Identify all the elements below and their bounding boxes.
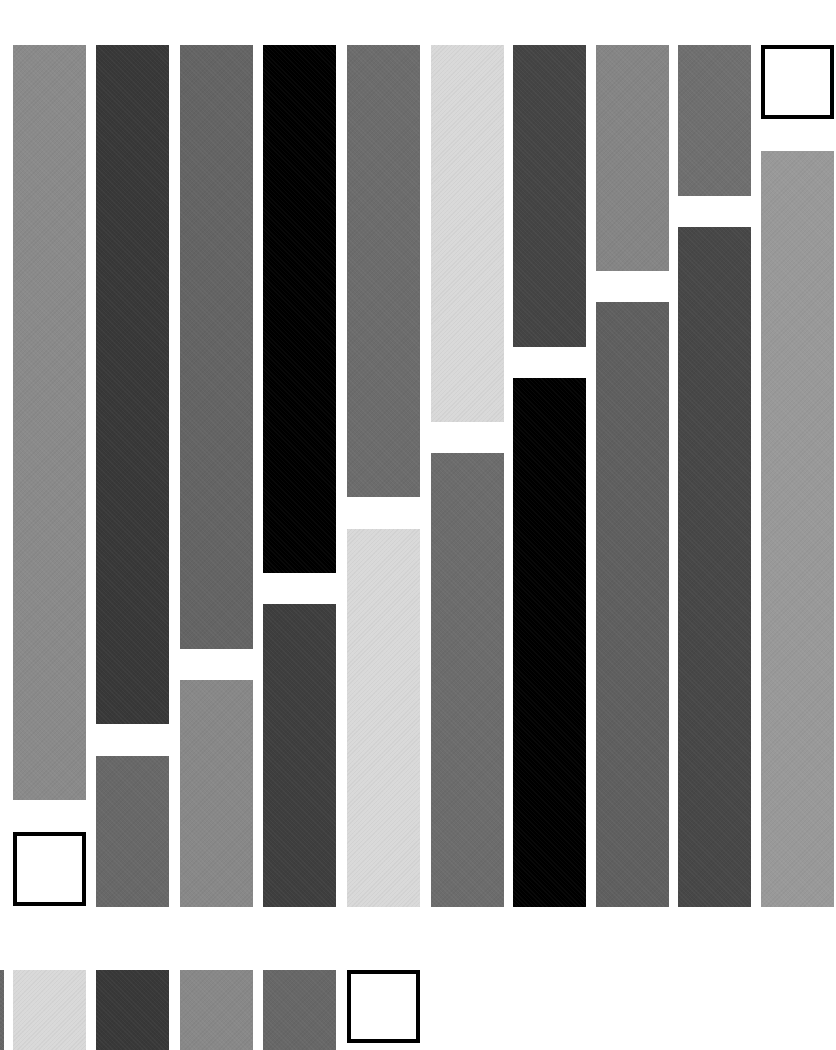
empty-square [13, 832, 86, 906]
gray-bar-segment [431, 453, 504, 907]
gray-bar-segment [180, 45, 253, 649]
gray-bar-segment [678, 45, 751, 196]
gray-bar-segment [96, 45, 169, 724]
gray-bar-segment [513, 45, 586, 347]
gray-bar-segment [347, 529, 420, 907]
gray-bar-segment [761, 151, 834, 907]
gray-bar-segment [513, 378, 586, 907]
gray-bar-segment [263, 604, 336, 907]
gray-bar-segment [596, 45, 669, 271]
gray-bar-segment [13, 45, 86, 800]
gray-swatch [263, 970, 336, 1050]
gray-bar-segment [678, 227, 751, 907]
gray-bar-segment [96, 756, 169, 907]
gray-bar-segment [431, 45, 504, 422]
gray-bar-segment [180, 680, 253, 907]
bar-grid-canvas [0, 0, 836, 1050]
gray-bar-segment [263, 45, 336, 573]
empty-square [347, 970, 420, 1043]
gray-swatch [96, 970, 169, 1050]
gray-bar-segment [347, 45, 420, 497]
empty-square [761, 45, 834, 119]
gray-bar-segment [596, 302, 669, 907]
gray-swatch [0, 970, 4, 1050]
gray-swatch [180, 970, 253, 1050]
gray-swatch [13, 970, 86, 1050]
